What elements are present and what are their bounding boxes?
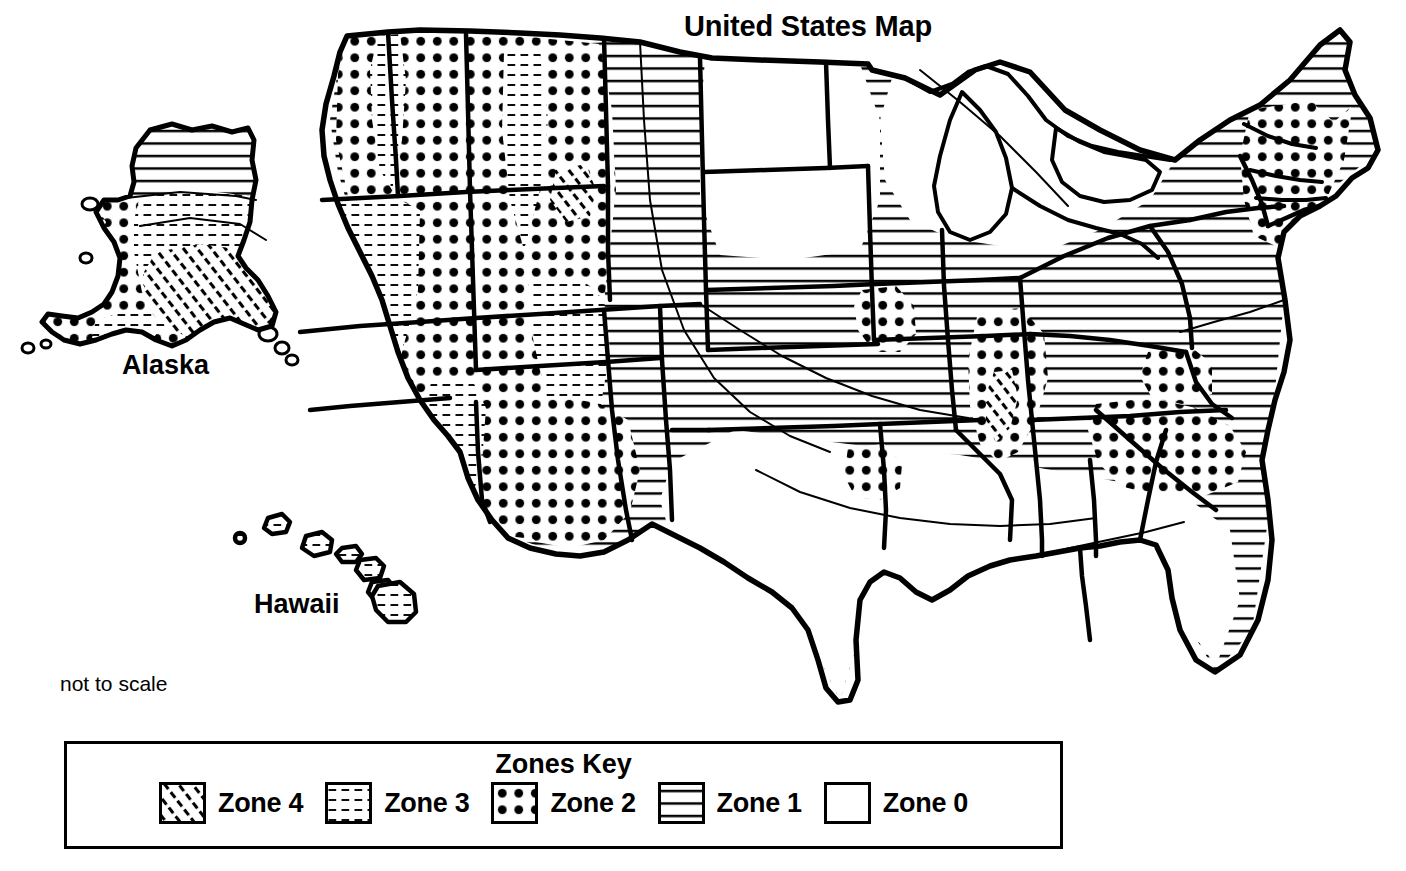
zones-key-legend: Zones Key Zone 4 Zone 3 xyxy=(64,741,1063,849)
zone-1-label: Zone 1 xyxy=(717,788,802,819)
zone-3-swatch xyxy=(325,782,372,824)
legend-title: Zones Key xyxy=(67,750,1060,778)
legend-item-zone-0: Zone 0 xyxy=(824,782,968,824)
zone-2-label: Zone 2 xyxy=(550,788,635,819)
legend-items: Zone 4 Zone 3 Zone 2 xyxy=(67,782,1060,824)
zone-4-swatch xyxy=(159,782,206,824)
legend-item-zone-2: Zone 2 xyxy=(491,782,635,824)
map-page: United States Map xyxy=(0,0,1406,871)
hawaii-label: Hawaii xyxy=(254,589,340,620)
zone-4-label: Zone 4 xyxy=(218,788,303,819)
zone-1-swatch xyxy=(658,782,705,824)
legend-item-zone-4: Zone 4 xyxy=(159,782,303,824)
alaska-label: Alaska xyxy=(122,350,209,381)
zone-0-swatch xyxy=(824,782,871,824)
zone-3-label: Zone 3 xyxy=(384,788,469,819)
not-to-scale-note: not to scale xyxy=(60,672,167,696)
zone-0-label: Zone 0 xyxy=(883,788,968,819)
legend-item-zone-1: Zone 1 xyxy=(658,782,802,824)
zone0-northern-plains xyxy=(700,60,880,260)
legend-item-zone-3: Zone 3 xyxy=(325,782,469,824)
zone-2-swatch xyxy=(491,782,538,824)
zone3-oregon-nevada xyxy=(298,196,420,500)
conus-zone-fills xyxy=(280,20,1400,740)
